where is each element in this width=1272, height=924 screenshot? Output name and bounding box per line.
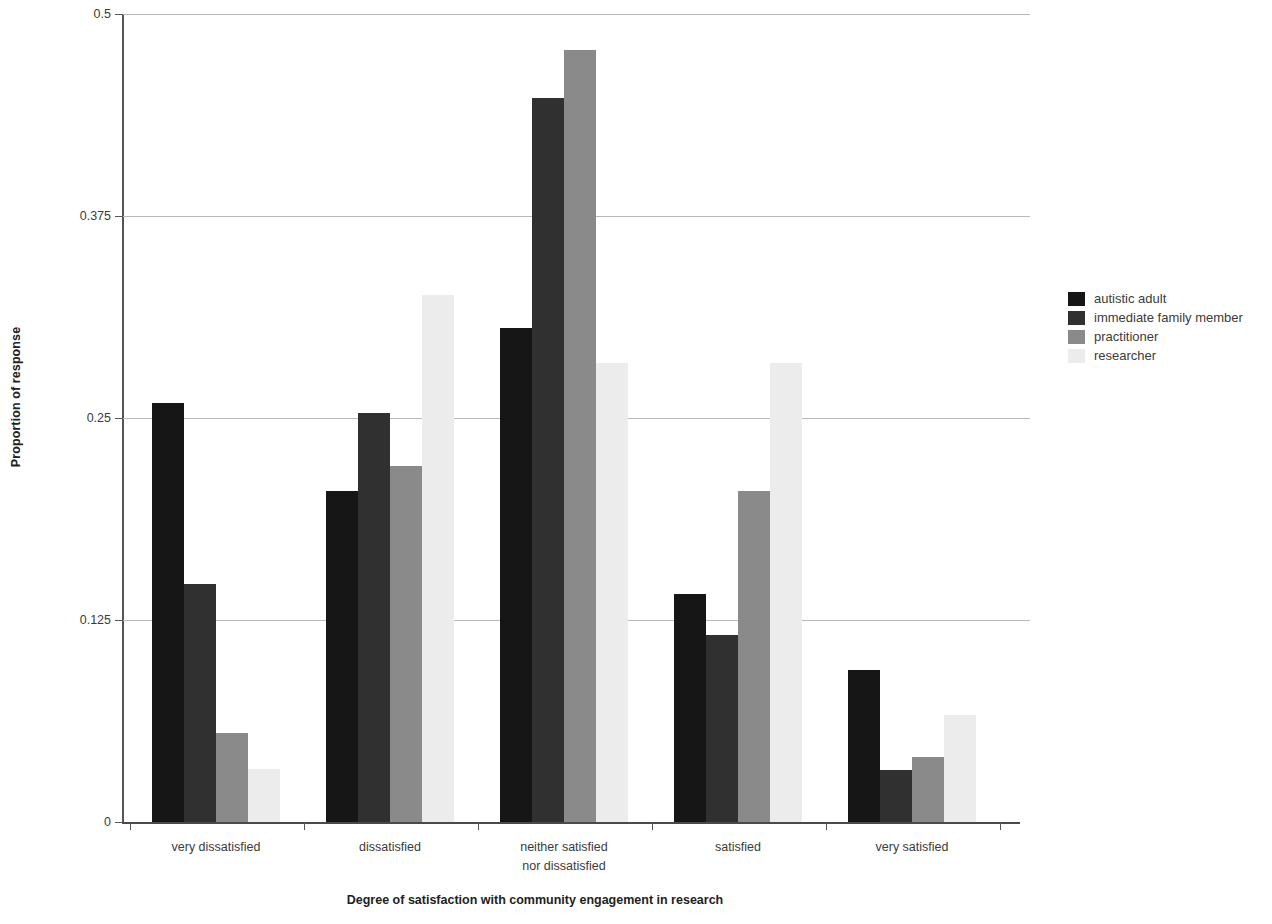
legend-item: immediate family member [1068, 308, 1243, 327]
legend-item: researcher [1068, 346, 1243, 365]
bar [944, 715, 976, 822]
bar [706, 635, 738, 822]
bar [848, 670, 880, 822]
x-tick-mark [652, 822, 653, 830]
category-label-line: very satisfied [802, 838, 1022, 857]
y-tick-label: 0.375 [80, 209, 111, 223]
bar [912, 757, 944, 822]
y-tick-label: 0.125 [80, 613, 111, 627]
bar [358, 413, 390, 822]
bar [216, 733, 248, 822]
bar [738, 491, 770, 822]
legend-item: autistic adult [1068, 289, 1243, 308]
legend: autistic adultimmediate family memberpra… [1068, 289, 1243, 365]
category-label-line: nor dissatisfied [454, 857, 674, 876]
bar [880, 770, 912, 822]
legend-item: practitioner [1068, 327, 1243, 346]
x-tick-mark [304, 822, 305, 830]
y-tick-mark [115, 620, 123, 621]
x-axis-title: Degree of satisfaction with community en… [0, 893, 1070, 907]
bar-chart-figure: Proportion of response 00.1250.250.3750.… [0, 0, 1272, 924]
legend-swatch-icon [1068, 311, 1085, 325]
bar [596, 363, 628, 822]
x-tick-mark [1000, 822, 1001, 830]
bar [248, 769, 280, 822]
y-tick-mark [115, 216, 123, 217]
legend-label: immediate family member [1094, 310, 1243, 325]
y-tick-mark [115, 14, 123, 15]
x-tick-mark [826, 822, 827, 830]
legend-label: practitioner [1094, 329, 1158, 344]
bar [674, 594, 706, 822]
y-tick-label: 0 [104, 815, 111, 829]
category-label: very satisfied [802, 838, 1022, 857]
bar [326, 491, 358, 822]
bar [390, 466, 422, 822]
y-tick-mark [115, 822, 123, 823]
bar [500, 328, 532, 822]
y-axis-title: Proportion of response [9, 297, 23, 497]
bar [422, 295, 454, 822]
x-tick-mark [130, 822, 131, 830]
legend-label: autistic adult [1094, 291, 1166, 306]
bar [184, 584, 216, 822]
bar [564, 50, 596, 822]
legend-swatch-icon [1068, 349, 1085, 363]
x-axis-line [122, 822, 1020, 824]
legend-swatch-icon [1068, 292, 1085, 306]
y-tick-label: 0.25 [87, 411, 111, 425]
gridline [122, 14, 1030, 15]
y-tick-mark [115, 418, 123, 419]
bar [770, 363, 802, 822]
plot-area: 00.1250.250.3750.5 very dissatisfieddiss… [122, 14, 1020, 822]
legend-label: researcher [1094, 348, 1156, 363]
legend-swatch-icon [1068, 330, 1085, 344]
bar [152, 403, 184, 822]
y-tick-label: 0.5 [94, 7, 111, 21]
x-tick-mark [478, 822, 479, 830]
bar [532, 98, 564, 822]
